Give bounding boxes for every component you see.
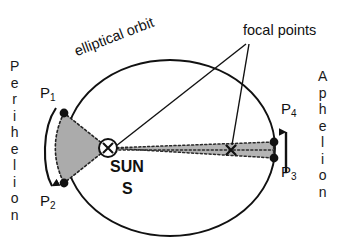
perihelion-label: Perihelion	[10, 58, 19, 223]
point-p1-marker	[60, 109, 69, 118]
point-p4-subscript: 4	[291, 108, 297, 119]
focal-points-label: focal points	[243, 22, 316, 38]
point-p1-label: P1	[40, 84, 56, 101]
aphelion-letter-1: p	[319, 85, 327, 102]
sun-label: SUN	[110, 158, 144, 176]
perihelion-direction-arc	[45, 108, 56, 186]
point-p2-subscript: 2	[50, 200, 56, 211]
orbit-diagram: elliptical orbit focal points SUN S P1 P…	[0, 0, 350, 252]
perihelion-letter-3: i	[13, 108, 16, 125]
perihelion-letter-1: e	[11, 75, 19, 92]
point-p3-marker	[270, 154, 279, 163]
perihelion-letter-2: r	[12, 91, 17, 108]
perihelion-letter-4: h	[11, 124, 19, 141]
point-p2-label: P2	[40, 192, 56, 209]
perihelion-letter-9: n	[11, 207, 19, 224]
aphelion-letter-5: i	[321, 151, 324, 168]
point-p4-letter: P	[281, 100, 291, 117]
point-p2-marker	[60, 179, 69, 188]
aphelion-letter-7: n	[319, 184, 327, 201]
focal-leader-line-sun	[116, 44, 246, 146]
point-p1-letter: P	[40, 84, 50, 101]
point-p3-letter: P	[281, 163, 291, 180]
perihelion-letter-7: i	[13, 174, 16, 191]
perihelion-letter-6: l	[13, 157, 16, 174]
point-p2-letter: P	[40, 192, 50, 209]
aphelion-letter-6: o	[319, 167, 327, 184]
perihelion-letter-5: e	[11, 141, 19, 158]
point-p3-label: P3	[281, 163, 297, 180]
perihelion-letter-8: o	[11, 190, 19, 207]
aphelion-letter-0: A	[318, 68, 327, 85]
point-p3-subscript: 3	[291, 171, 297, 182]
point-p4-label: P4	[281, 100, 297, 117]
perihelion-letter-0: P	[10, 58, 19, 75]
aphelion-label: Aphelion	[318, 68, 327, 200]
focal-leader-line-second	[232, 44, 249, 145]
sun-symbol-label: S	[122, 180, 133, 198]
aphelion-letter-3: e	[319, 118, 327, 135]
point-p1-subscript: 1	[50, 92, 56, 103]
aphelion-letter-2: h	[319, 101, 327, 118]
point-p4-marker	[270, 138, 279, 147]
aphelion-letter-4: l	[321, 134, 324, 151]
